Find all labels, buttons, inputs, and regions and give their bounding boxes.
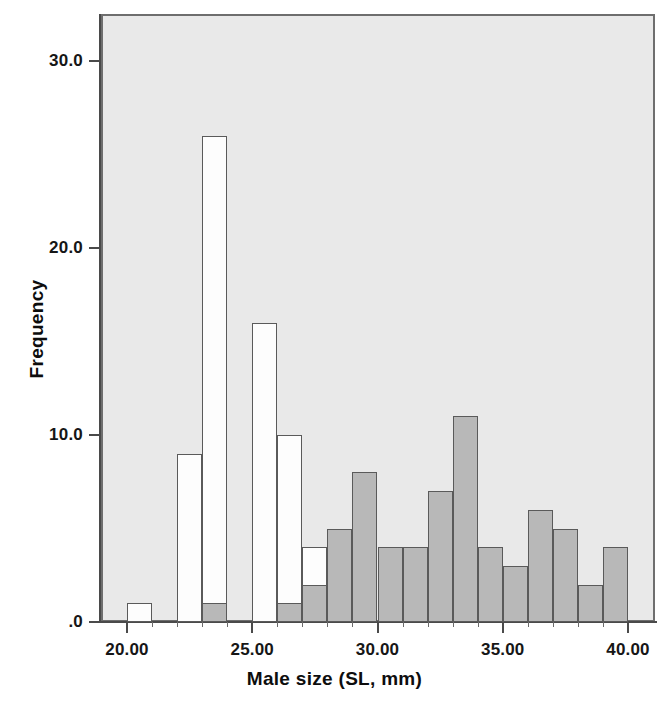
x-minor-tick	[403, 622, 404, 627]
histogram-bar	[202, 136, 227, 622]
x-minor-tick	[202, 622, 203, 627]
y-tick-label: 30.0	[0, 51, 83, 71]
y-tick-mark	[89, 621, 100, 623]
x-minor-tick	[528, 622, 529, 627]
y-tick-label: .0	[0, 612, 83, 632]
histogram-bar	[352, 472, 377, 622]
histogram-bar	[277, 435, 302, 622]
x-tick-label: 25.00	[230, 640, 274, 660]
x-tick-label: 40.00	[606, 640, 650, 660]
x-minor-tick	[302, 622, 303, 627]
x-minor-tick	[478, 622, 479, 627]
histogram-bar	[302, 585, 327, 622]
x-minor-tick	[352, 622, 353, 627]
histogram-bar	[553, 529, 578, 623]
histogram-bar	[428, 491, 453, 622]
y-axis-title: Frequency	[26, 229, 48, 429]
x-minor-tick	[603, 622, 604, 627]
x-minor-tick	[578, 622, 579, 627]
x-tick-label: 30.00	[356, 640, 400, 660]
x-minor-tick	[453, 622, 454, 627]
histogram-bar	[177, 454, 202, 622]
y-axis-line	[99, 14, 101, 623]
x-tick-mark	[502, 622, 504, 633]
histogram-figure: .010.020.030.0 20.0025.0030.0035.0040.00…	[0, 0, 669, 706]
histogram-bar	[252, 323, 277, 622]
x-axis-title: Male size (SL, mm)	[0, 668, 669, 690]
histogram-bar	[277, 603, 302, 622]
x-tick-mark	[377, 622, 379, 633]
x-minor-tick	[428, 622, 429, 627]
x-minor-tick	[177, 622, 178, 627]
x-tick-label: 20.00	[105, 640, 149, 660]
y-tick-mark	[89, 434, 100, 436]
histogram-bar	[327, 529, 352, 623]
y-tick-mark	[89, 60, 100, 62]
x-minor-tick	[553, 622, 554, 627]
histogram-bar	[202, 603, 227, 622]
histogram-bar	[603, 547, 628, 622]
histogram-bar	[503, 566, 528, 622]
x-tick-mark	[126, 622, 128, 633]
x-tick-label: 35.00	[481, 640, 525, 660]
bars-layer	[101, 14, 655, 622]
histogram-bar	[578, 585, 603, 622]
x-minor-tick	[152, 622, 153, 627]
x-minor-tick	[277, 622, 278, 627]
histogram-bar	[528, 510, 553, 622]
histogram-bar	[403, 547, 428, 622]
histogram-bar	[478, 547, 503, 622]
y-tick-mark	[89, 247, 100, 249]
histogram-bar	[378, 547, 403, 622]
x-minor-tick	[227, 622, 228, 627]
x-tick-mark	[627, 622, 629, 633]
x-tick-mark	[251, 622, 253, 633]
x-minor-tick	[327, 622, 328, 627]
histogram-bar	[453, 416, 478, 622]
histogram-bar	[127, 603, 152, 622]
